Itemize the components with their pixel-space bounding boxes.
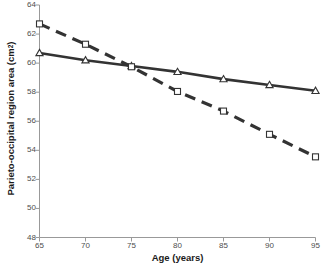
axis-spines	[40, 5, 316, 238]
marker-square	[83, 41, 89, 47]
marker-square	[267, 131, 273, 137]
y-axis-tick-marks	[36, 5, 40, 238]
marker-square	[37, 21, 43, 27]
plot-area	[0, 0, 329, 271]
marker-square	[175, 88, 181, 94]
chart-figure: Parieto-occipital region area (cm2) 4850…	[0, 0, 329, 271]
marker-square	[221, 108, 227, 114]
x-axis-title: Age (years)	[40, 252, 315, 263]
x-axis-tick-marks	[40, 238, 316, 242]
marker-square	[129, 64, 135, 70]
marker-square	[313, 154, 319, 160]
